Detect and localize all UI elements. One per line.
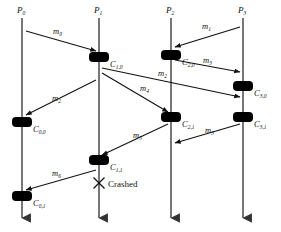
checkpoint-label-C10: C1,0 [110, 60, 123, 69]
message-arrows [26, 27, 240, 190]
diagram-canvas [0, 0, 281, 232]
checkpoint-label-C30: C3,0 [254, 89, 267, 98]
crash-label: Crashed [108, 180, 138, 189]
message-label-m6: m6 [52, 169, 61, 178]
message-label-m5: m5 [133, 131, 142, 140]
process-label-P3: P3 [238, 6, 246, 15]
checkpoint-timeline-diagram: P0P1P2P3m0m1m3m2m4m2m5m3m6C1,0C2,0C3,0C0… [0, 0, 281, 232]
message-label-m4: m4 [140, 84, 149, 93]
message-label-m3: m3 [203, 56, 212, 65]
message-label-m3b: m3 [205, 126, 214, 135]
message-label-m2: m2 [158, 69, 167, 78]
process-label-P1: P1 [94, 6, 102, 15]
checkpoint-label-C01: C0,1 [33, 199, 46, 208]
process-label-P0: P0 [17, 6, 25, 15]
checkpoint-label-C31: C3,1 [254, 120, 267, 129]
message-label-m0: m0 [53, 27, 62, 36]
checkpoint-label-C11: C1,1 [110, 163, 123, 172]
checkpoint-label-C21: C2,1 [182, 120, 195, 129]
message-label-m2b: m2 [52, 94, 61, 103]
checkpoint-label-C00: C0,0 [33, 125, 46, 134]
message-label-m1: m1 [202, 22, 211, 31]
process-label-P2: P2 [166, 6, 174, 15]
checkpoint-label-C20: C2,0 [182, 58, 195, 67]
